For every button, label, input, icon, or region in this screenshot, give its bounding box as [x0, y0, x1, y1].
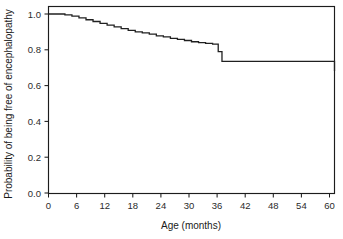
- x-tick-label: 24: [156, 200, 167, 211]
- survival-curve: [49, 14, 335, 71]
- x-tick-label: 6: [74, 200, 79, 211]
- y-tick-label: 0.4: [28, 116, 41, 127]
- plot-frame: [49, 7, 335, 194]
- x-tick-label: 36: [212, 200, 223, 211]
- x-axis-tick-labels: 0 6 12 18 24 30 36 42 48 54 60: [46, 200, 335, 211]
- y-tick-label: 0.8: [28, 44, 41, 55]
- x-tick-label: 48: [268, 200, 279, 211]
- x-tick-label: 60: [324, 200, 335, 211]
- survival-chart-figure: 1.0 0.8 0.6 0.4 0.2 0.0 0 6 12 18: [0, 0, 343, 239]
- y-tick-label: 0.2: [28, 152, 41, 163]
- chart-canvas: 1.0 0.8 0.6 0.4 0.2 0.0 0 6 12 18: [0, 0, 343, 239]
- y-axis-tick-labels: 1.0 0.8 0.6 0.4 0.2 0.0: [28, 9, 41, 199]
- x-tick-label: 0: [46, 200, 51, 211]
- x-tick-label: 54: [296, 200, 307, 211]
- y-tick-label: 0.6: [28, 80, 41, 91]
- x-tick-label: 30: [184, 200, 195, 211]
- y-axis-ticks: [45, 14, 49, 193]
- y-tick-label: 0.0: [28, 188, 41, 199]
- x-axis-title: Age (months): [161, 220, 221, 231]
- x-tick-label: 42: [240, 200, 251, 211]
- y-tick-label: 1.0: [28, 9, 41, 20]
- y-axis-title: Probability of being free of encephalopa…: [3, 9, 14, 199]
- x-tick-label: 18: [128, 200, 139, 211]
- x-tick-label: 12: [99, 200, 110, 211]
